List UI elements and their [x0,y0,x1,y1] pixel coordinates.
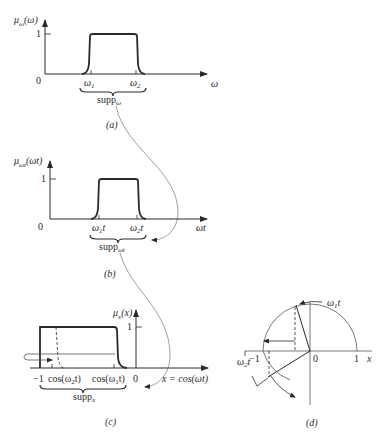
tick-omega1t: ω1t [92,222,106,235]
panel-c: μx(x) 1 0 x = cos(ωt) −1 cos(ω2t) cos(ω1… [24,307,209,428]
caption-d: (d) [306,417,318,429]
support-label: suppx [73,391,96,404]
connector-b-c [120,253,170,387]
origin-label: 0 [313,353,318,364]
caption-a: (a) [106,119,118,131]
y-axis-label: μω(ω) [13,14,38,28]
origin-label: 0 [133,373,138,384]
x-axis-label: ωt [196,222,206,233]
membership-curve [91,179,146,219]
radius-omega1 [296,305,310,351]
tick-omega2: ω2 [130,77,141,90]
tick-omega1: ω1 [84,77,95,90]
origin-label: 0 [38,221,43,232]
angle1-arrow [300,301,322,304]
tick-cos-omega2t: cos(ω2t) [48,373,81,386]
connector-a-b [116,106,178,240]
y-axis-label: μωt(ωt) [13,155,43,169]
tick-one: 1 [354,353,359,364]
y-tick-label: 1 [127,321,132,332]
tick-cos-omega1t: cos(ω1t) [92,373,125,386]
tick-minus-one: −1 [249,353,260,364]
fuzzy-mapping-diagram: μω(ω) 1 0 ω ω1 ω2 suppω (a) μωt(ωt) 1 0 … [0,0,387,439]
x-axis-label: x [366,353,372,364]
angle2-arrow [252,376,268,386]
panel-a: μω(ω) 1 0 ω ω1 ω2 suppω (a) [13,14,218,131]
y-tick-label: 1 [36,28,41,39]
radius-omega2 [268,351,310,377]
y-tick-label: 1 [41,173,46,184]
x-axis-label: x = cos(ωt) [161,373,209,385]
x-axis-label: ω [211,78,218,89]
caption-c: (c) [105,416,117,428]
y-axis-label: μx(x) [112,307,133,321]
dashed-projection [56,327,64,368]
support-label: suppωt [99,241,126,254]
rotation-arrow [270,375,295,397]
membership-curve [82,34,145,74]
tick-minus-one: −1 [33,373,44,384]
support-label: suppω [97,94,121,107]
membership-curve [40,327,127,368]
panel-d: ω1t ω2t −1 0 1 x (d) [237,297,372,429]
caption-b: (b) [104,268,116,280]
horizontal-projection [24,354,115,360]
tick-omega2t: ω2t [130,222,144,235]
origin-label: 0 [36,75,41,86]
